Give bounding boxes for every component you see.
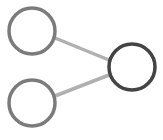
edge-bottom-to-output — [55, 75, 109, 96]
input-node-bottom — [9, 80, 55, 126]
edge-top-to-output — [55, 38, 109, 60]
node-diagram — [0, 0, 163, 140]
input-node-top — [9, 8, 55, 54]
output-node — [109, 44, 155, 90]
